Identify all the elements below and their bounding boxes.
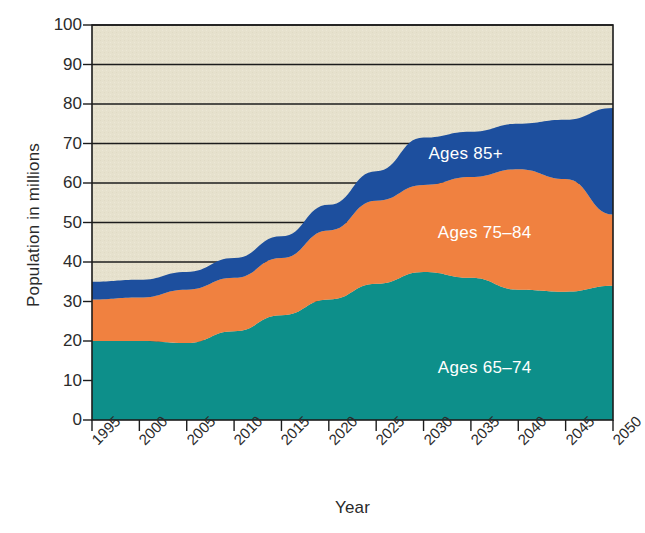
- series-label: Ages 85+: [428, 144, 503, 164]
- series-label: Ages 75–84: [438, 223, 532, 243]
- x-axis-title: Year: [90, 498, 615, 518]
- y-axis-ticks: [83, 25, 92, 420]
- series-label: Ages 65–74: [438, 358, 532, 378]
